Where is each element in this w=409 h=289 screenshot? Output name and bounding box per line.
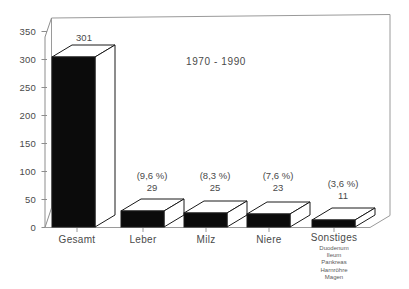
y-tick-label-350: 350 [8, 26, 36, 37]
bar-gesamt [52, 45, 115, 227]
value-label-leber: 29 [122, 182, 182, 193]
bar-chart-figure: 350 300 250 200 150 100 50 0 1970 - 1990… [0, 0, 409, 289]
sonstiges-item-list: Duodenum Ileum Pankreas Harnröhre Magen [304, 245, 364, 281]
sonstiges-item-harnroehre: Harnröhre [304, 267, 364, 274]
y-tick-label-250: 250 [8, 82, 36, 93]
bar-leber [121, 199, 184, 227]
chart-title: 1970 - 1990 [186, 56, 246, 67]
bar-sonstiges [312, 208, 375, 227]
percent-label-sonstiges: (3,6 %) [313, 178, 373, 189]
x-label-milz: Milz [176, 234, 236, 245]
y-tick-label-0: 0 [8, 222, 36, 233]
y-axis [42, 18, 52, 228]
x-label-leber: Leber [113, 234, 173, 245]
x-axis-ticks [77, 228, 334, 233]
percent-label-niere: (7,6 %) [248, 170, 308, 181]
y-tick-label-300: 300 [8, 54, 36, 65]
sonstiges-item-duodenum: Duodenum [304, 245, 364, 252]
x-label-sonstiges: Sonstiges [304, 232, 364, 243]
x-label-niere: Niere [239, 234, 299, 245]
value-label-gesamt: 301 [60, 32, 108, 43]
y-tick-label-100: 100 [8, 166, 36, 177]
x-label-gesamt: Gesamt [47, 234, 107, 245]
value-label-milz: 25 [185, 182, 245, 193]
sonstiges-item-magen: Magen [304, 274, 364, 281]
sonstiges-item-pankreas: Pankreas [304, 259, 364, 266]
percent-label-leber: (9,6 %) [122, 170, 182, 181]
percent-label-milz: (8,3 %) [185, 170, 245, 181]
value-label-niere: 23 [248, 182, 308, 193]
value-label-sonstiges: 11 [313, 190, 373, 201]
bar-milz [184, 201, 247, 227]
sonstiges-item-ileum: Ileum [304, 252, 364, 259]
y-tick-label-150: 150 [8, 138, 36, 149]
y-tick-label-50: 50 [8, 194, 36, 205]
y-tick-label-200: 200 [8, 110, 36, 121]
bar-niere [247, 202, 310, 227]
